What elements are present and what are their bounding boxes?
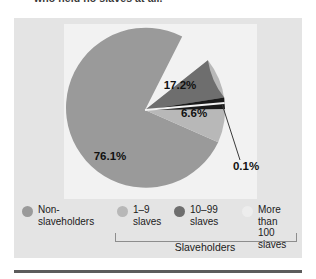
caption-text: who held no slaves at all. — [34, 0, 163, 4]
caption-strip: who held no slaves at all. — [0, 0, 316, 9]
legend-item-10-99-slaves[interactable]: 10–99 slaves — [174, 204, 218, 227]
pie-label-10-99-slaves: 6.6% — [181, 107, 207, 119]
legend-item-non-slaveholders[interactable]: Non- slaveholders — [22, 204, 94, 227]
legend-label-1-9-slaves: 1–9 slaves — [133, 204, 161, 227]
pie-label-1-9-slaves: 17.2% — [164, 79, 197, 91]
callout-leader-line — [222, 104, 240, 160]
slaveholders-group-label: Slaveholders — [115, 241, 295, 253]
pie-label-100-plus-slaves: 0.1% — [233, 160, 259, 172]
legend-swatch-10-99-slaves — [174, 206, 185, 217]
legend-label-non-slaveholders: Non- slaveholders — [38, 204, 94, 227]
legend-swatch-non-slaveholders — [22, 206, 33, 217]
bottom-rule — [14, 270, 302, 273]
chart-legend: Non- slaveholders 1–9 slaves 10–99 slave… — [14, 198, 302, 258]
pie-label-non-slaveholders: 76.1% — [94, 150, 127, 162]
legend-label-10-99-slaves: 10–99 slaves — [190, 204, 218, 227]
legend-swatch-100-plus-slaves — [242, 206, 253, 217]
legend-item-1-9-slaves[interactable]: 1–9 slaves — [117, 204, 161, 227]
legend-swatch-1-9-slaves — [117, 206, 128, 217]
